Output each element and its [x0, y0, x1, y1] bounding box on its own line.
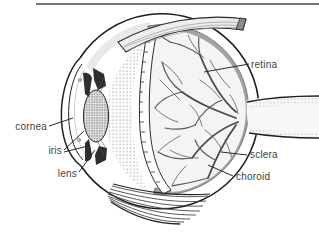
- label-retina: retina: [251, 59, 277, 70]
- label-lens: lens: [58, 168, 77, 179]
- eye-diagram-figure: cornea iris lens retina sclera choroid: [0, 0, 319, 232]
- lens-shape: [84, 90, 109, 142]
- label-sclera: sclera: [250, 149, 278, 160]
- label-cornea: cornea: [15, 121, 47, 132]
- label-iris: iris: [48, 145, 62, 156]
- eye-diagram-canvas: cornea iris lens retina sclera choroid: [0, 0, 319, 232]
- optic-nerve: [247, 95, 319, 140]
- label-choroid: choroid: [236, 171, 270, 182]
